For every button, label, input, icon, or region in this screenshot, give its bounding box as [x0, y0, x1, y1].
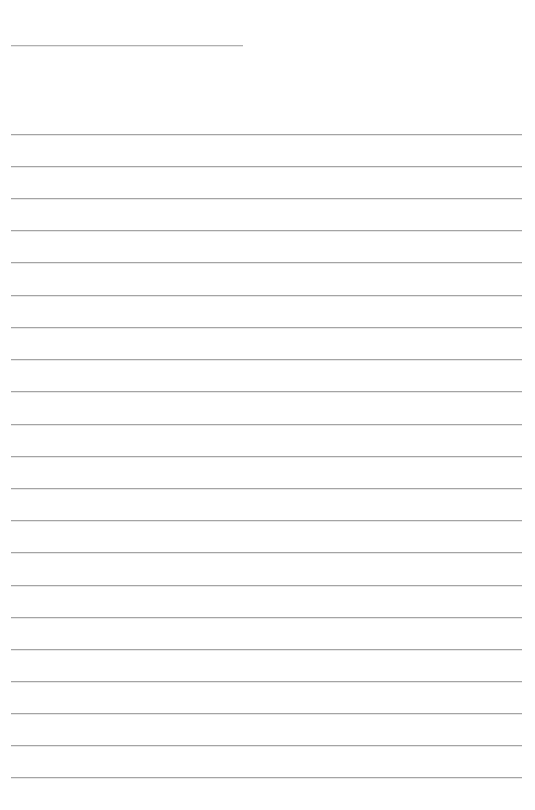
body-rule-line — [11, 262, 522, 263]
body-rule-line — [11, 617, 522, 618]
body-rule-line — [11, 230, 522, 231]
body-rule-line — [11, 424, 522, 425]
lined-paper-page — [0, 0, 535, 810]
body-rule-line — [11, 585, 522, 586]
body-rule-line — [11, 295, 522, 296]
body-rule-line — [11, 681, 522, 682]
body-rule-line — [11, 488, 522, 489]
body-rule-line — [11, 520, 522, 521]
body-rule-line — [11, 327, 522, 328]
body-rule-line — [11, 166, 522, 167]
body-rule-line — [11, 745, 522, 746]
body-rule-line — [11, 777, 522, 778]
body-rule-line — [11, 456, 522, 457]
body-rule-line — [11, 359, 522, 360]
body-rule-line — [11, 391, 522, 392]
body-rule-line — [11, 713, 522, 714]
body-rule-line — [11, 134, 522, 135]
body-rule-line — [11, 198, 522, 199]
body-rule-line — [11, 649, 522, 650]
body-rule-line — [11, 552, 522, 553]
title-rule — [11, 45, 243, 46]
